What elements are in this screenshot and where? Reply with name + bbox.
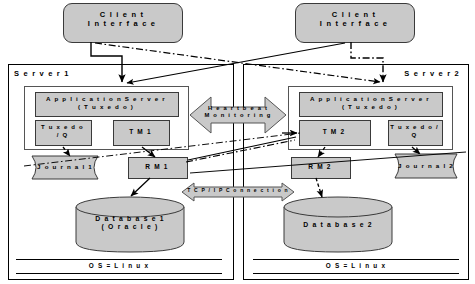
server-1-application-server-box xyxy=(35,92,179,117)
server-1-rm-box xyxy=(128,157,188,179)
server-2-application-server-box xyxy=(299,92,443,117)
heartbeat-monitoring-arrow xyxy=(189,95,287,135)
server-1-tm-box xyxy=(113,120,170,146)
tcpip-connection-arrow xyxy=(181,182,295,202)
architecture-diagram: C l i e n t I n t e r f a c e C l i e n … xyxy=(0,0,475,284)
server-2-tm-box xyxy=(299,120,371,146)
client-interface-2-box xyxy=(295,3,415,43)
server-2-database-shape xyxy=(283,196,393,253)
server-1-journal-shape xyxy=(24,155,106,180)
client-interface-1-box xyxy=(63,3,183,43)
server-2-os-bar xyxy=(253,259,459,274)
server-2-rm-box xyxy=(291,157,351,179)
server-2-tuxedo-queue-box xyxy=(388,120,443,146)
server-2-journal-shape xyxy=(387,153,465,179)
server-1-tuxedo-queue-box xyxy=(35,120,92,146)
server-1-os-bar xyxy=(16,259,222,274)
server-1-database-shape xyxy=(75,196,185,253)
